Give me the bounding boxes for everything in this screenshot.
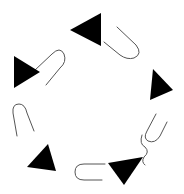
paperclip-icon	[75, 164, 105, 180]
triangle-icon	[150, 69, 173, 100]
triangle-icon	[27, 144, 56, 171]
triangle-icon	[14, 56, 40, 88]
diagram-canvas	[0, 0, 184, 194]
triangle-icon	[108, 157, 143, 185]
triangle-icon	[70, 13, 101, 46]
paperclip-icon	[13, 104, 34, 136]
paperclip-icon	[141, 114, 167, 165]
paperclip-icon	[104, 27, 139, 59]
shapes-layer	[0, 0, 184, 194]
paperclip-icon	[34, 50, 65, 85]
